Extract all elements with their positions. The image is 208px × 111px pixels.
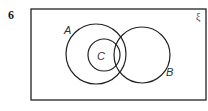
venn-diagram: ξ A B C	[0, 0, 208, 111]
set-b-label: B	[166, 66, 173, 78]
universal-set-symbol: ξ	[196, 11, 201, 23]
universal-set-rectangle	[31, 9, 206, 100]
set-a-circle	[66, 24, 126, 84]
set-b-circle	[114, 27, 170, 83]
set-a-label: A	[63, 24, 71, 36]
set-c-label: C	[97, 50, 105, 62]
